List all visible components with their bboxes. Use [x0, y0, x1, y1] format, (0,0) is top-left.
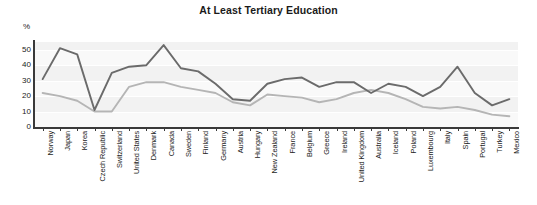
x-tick-label: Switzerland	[115, 131, 124, 168]
x-tick-label: Ireland	[340, 131, 349, 153]
x-tick-label: Australia	[374, 131, 383, 159]
x-tick-label: Iceland	[391, 131, 400, 154]
x-tick-label: France	[288, 131, 297, 153]
x-tick-label: United States	[132, 131, 141, 174]
chart-root: At Least Tertiary Education % 0102030405…	[0, 0, 537, 205]
x-tick-label: Norway	[46, 131, 55, 155]
x-tick-label: Czech Republic	[98, 131, 107, 181]
x-tick-label: Spain	[461, 131, 470, 149]
x-tick-label: Japan	[63, 131, 72, 151]
x-tick-label: Canada	[167, 131, 176, 156]
x-tick-label: Hungary	[253, 131, 262, 158]
x-tick-label: Denmark	[149, 131, 158, 160]
x-tick-label: Luxembourg	[426, 131, 435, 171]
x-tick-label: United Kingdom	[357, 131, 366, 182]
series-line	[43, 45, 510, 110]
data-series-layer	[34, 42, 518, 127]
x-tick-label: Sweden	[184, 131, 193, 157]
x-tick-label: Poland	[409, 131, 418, 153]
x-tick-label: Mexico	[512, 131, 521, 154]
x-tick-label: Korea	[80, 131, 89, 150]
x-tick-label: Italy	[443, 131, 452, 144]
x-tick-label: Turkey	[495, 131, 504, 153]
x-tick-label: Greece	[322, 131, 331, 155]
x-tick-label: New Zealand	[270, 131, 279, 173]
x-tick-label: Belgium	[305, 131, 314, 157]
x-tick-label: Portugal	[478, 131, 487, 158]
x-tick-label: Austria	[236, 131, 245, 153]
x-tick-label: Finland	[201, 131, 210, 155]
x-tick-label: Germany	[219, 131, 228, 161]
